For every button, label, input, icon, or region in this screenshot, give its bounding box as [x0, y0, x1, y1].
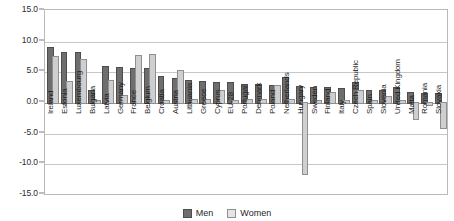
- x-tick-mark: [149, 102, 150, 105]
- grouped-bar-chart: 15.010.05.00.0-5.0-10.0-15.0 IrelandEsto…: [0, 0, 454, 221]
- x-tick-mark: [52, 102, 53, 105]
- bar-group: [405, 10, 419, 194]
- x-tick-mark: [315, 102, 316, 105]
- bar-group: [184, 10, 198, 194]
- legend-item-men[interactable]: Men: [183, 208, 214, 218]
- y-tick-label: 15.0: [22, 4, 38, 14]
- bar-group: [128, 10, 142, 194]
- x-tick-mark: [177, 102, 178, 105]
- bar-group: [392, 10, 406, 194]
- bars-layer: [45, 10, 447, 194]
- x-tick-mark: [357, 102, 358, 105]
- x-tick-mark: [246, 102, 247, 105]
- x-tick-mark: [385, 102, 386, 105]
- x-tick-mark: [274, 102, 275, 105]
- bar-group: [295, 10, 309, 194]
- y-tick-label: 10.0: [22, 35, 38, 45]
- x-tick-mark: [163, 102, 164, 105]
- bar-group: [225, 10, 239, 194]
- bar-group: [267, 10, 281, 194]
- bar-group: [211, 10, 225, 194]
- bar-group: [197, 10, 211, 194]
- bar-group: [59, 10, 73, 194]
- x-tick-mark: [121, 102, 122, 105]
- bar-group: [308, 10, 322, 194]
- legend-label: Men: [196, 208, 214, 218]
- x-tick-mark: [288, 102, 289, 105]
- bar-group: [364, 10, 378, 194]
- legend-swatch-women-icon: [227, 209, 236, 218]
- x-tick-mark: [260, 102, 261, 105]
- x-tick-mark: [80, 102, 81, 105]
- bar-group: [433, 10, 447, 194]
- x-tick-mark: [94, 102, 95, 105]
- y-tick-label: -5.0: [24, 127, 38, 137]
- bar-group: [100, 10, 114, 194]
- x-tick-mark: [412, 102, 413, 105]
- x-tick-mark: [440, 102, 441, 105]
- bar-group: [114, 10, 128, 194]
- bar-group: [350, 10, 364, 194]
- x-tick-mark: [107, 102, 108, 105]
- y-tick-label: 5.0: [26, 65, 38, 75]
- x-tick-mark: [218, 102, 219, 105]
- x-tick-mark: [301, 102, 302, 105]
- bar-group: [322, 10, 336, 194]
- y-tick-label: 0.0: [26, 96, 38, 106]
- bar-group: [378, 10, 392, 194]
- x-tick-mark: [426, 102, 427, 105]
- bar-group: [156, 10, 170, 194]
- y-tick-label: -10.0: [19, 157, 38, 167]
- y-tick-label: -15.0: [19, 188, 38, 198]
- x-tick-mark: [343, 102, 344, 105]
- bar-group: [336, 10, 350, 194]
- bar-group: [419, 10, 433, 194]
- x-tick-mark: [191, 102, 192, 105]
- x-tick-mark: [329, 102, 330, 105]
- legend-item-women[interactable]: Women: [227, 208, 271, 218]
- y-axis: 15.010.05.00.0-5.0-10.0-15.0: [0, 9, 44, 195]
- legend-label: Women: [240, 208, 271, 218]
- bar-group: [73, 10, 87, 194]
- x-tick-mark: [371, 102, 372, 105]
- x-tick-mark: [66, 102, 67, 105]
- legend-swatch-men-icon: [183, 209, 192, 218]
- x-tick-mark: [232, 102, 233, 105]
- chart-legend: MenWomen: [0, 208, 454, 218]
- bar-group: [239, 10, 253, 194]
- bar-group: [170, 10, 184, 194]
- bar-group: [87, 10, 101, 194]
- bar-group: [142, 10, 156, 194]
- bar-women: [440, 102, 447, 129]
- x-tick-mark: [204, 102, 205, 105]
- bar-group: [253, 10, 267, 194]
- x-tick-mark: [398, 102, 399, 105]
- bar-group: [45, 10, 59, 194]
- bar-group: [281, 10, 295, 194]
- x-tick-mark: [135, 102, 136, 105]
